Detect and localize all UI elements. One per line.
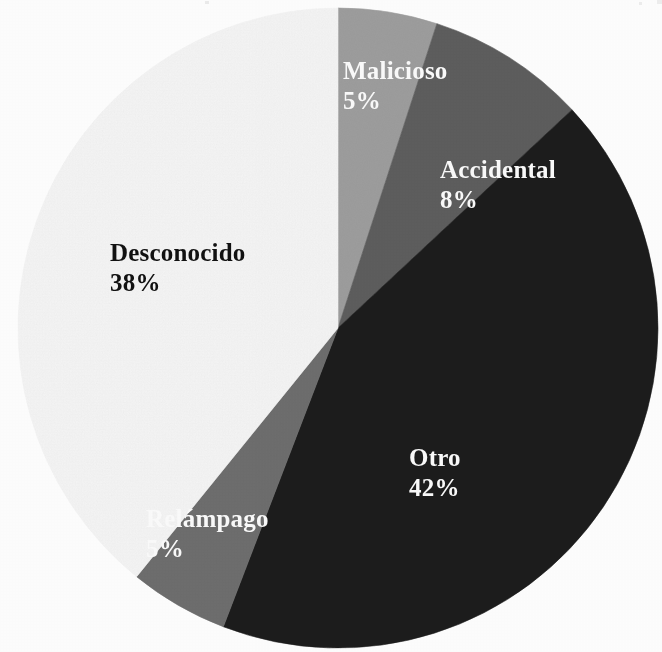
pie-slice-name-relampago: Relámpago [146,504,269,534]
pie-slice-label-accidental: Accidental 8% [440,155,556,214]
pie-slice-value-desconocido: 38% [110,268,246,298]
pie-slice-label-malicioso: Malicioso 5% [343,56,448,115]
pie-slice-name-accidental: Accidental [440,155,556,185]
pie-slices-group [18,8,658,648]
pie-slice-value-otro: 42% [409,473,461,503]
pie-slice-label-relampago: Relámpago 5% [146,504,269,563]
pie-slice-name-otro: Otro [409,443,461,473]
pie-slice-value-malicioso: 5% [343,86,448,116]
pie-slice-value-accidental: 8% [440,185,556,215]
pie-slice-value-relampago: 5% [146,534,269,564]
pie-slice-label-desconocido: Desconocido 38% [110,238,246,297]
pie-slice-name-desconocido: Desconocido [110,238,246,268]
pie-slice-label-otro: Otro 42% [409,443,461,502]
pie-slice-name-malicioso: Malicioso [343,56,448,86]
pie-chart-figure: Malicioso 5% Accidental 8% Desconocido 3… [0,0,662,652]
pie-chart-svg [0,0,662,652]
